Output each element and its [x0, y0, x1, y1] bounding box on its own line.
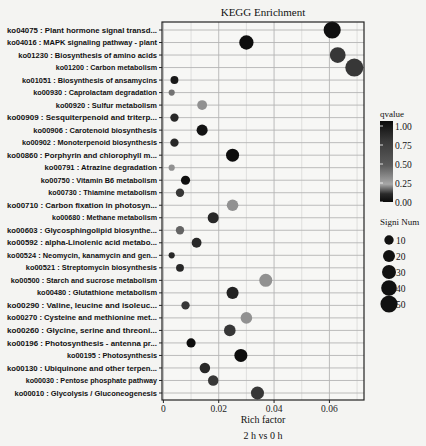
y-axis-label: ko00680 : Methane metabolism — [52, 214, 157, 222]
color-bar-label: 0.75 — [395, 141, 412, 151]
size-legend-label: 10 — [396, 236, 406, 246]
y-axis-label: ko01051 : Biosynthesis of ansamycins — [22, 77, 157, 85]
y-axis-label: ko00750 : Vitamin B6 metabolism — [41, 177, 157, 185]
size-legend-title: Signi Num — [380, 217, 419, 227]
y-axis-label: ko00930 : Caprolactam degradation — [33, 89, 157, 97]
y-axis-label: ko04075 : Plant hormone signal transd... — [7, 27, 157, 35]
size-legend-label: 50 — [396, 300, 406, 310]
data-point — [345, 59, 363, 77]
data-point — [197, 125, 208, 136]
data-point — [224, 325, 236, 337]
data-point — [170, 113, 178, 121]
y-axis-label: ko00500 : Starch and sucrose metabolism — [11, 277, 157, 285]
y-axis-label: ko00524 : Neomycin, kanamycin and gen... — [7, 252, 157, 260]
data-point — [208, 212, 219, 223]
data-point — [192, 238, 202, 248]
y-axis-label: ko00902 : Monoterpenoid biosynthesis — [22, 139, 157, 147]
data-point — [169, 165, 175, 171]
y-axis-label: ko00030 : Pentose phosphate pathway — [26, 377, 157, 385]
x-tick-label: 0.02 — [210, 404, 227, 414]
size-legend-label: 30 — [396, 268, 406, 278]
y-axis-label: ko00730 : Thiamine metabolism — [48, 189, 157, 197]
color-legend: qvalue 1.000.750.500.250.00 — [380, 109, 412, 208]
y-axis-labels: ko04075 : Plant hormone signal transd...… — [7, 27, 162, 398]
y-axis-label: ko00710 : Carbon fixation in photosyn... — [7, 202, 157, 210]
y-axis-label: ko00521 : Streptomycin biosynthesis — [26, 264, 157, 272]
x-axis-label: Rich factor — [241, 414, 286, 425]
plot-area — [162, 21, 364, 400]
data-point — [226, 149, 239, 162]
data-point — [181, 301, 189, 309]
size-legend-dot — [384, 235, 393, 244]
y-axis-label: ko00920 : Sulfur metabolism — [56, 102, 157, 110]
data-point — [186, 338, 195, 347]
x-tick-label: 0.06 — [321, 404, 338, 414]
size-legend: Signi Num 1020304050 — [380, 217, 419, 313]
x-tick-label: 0 — [161, 404, 166, 414]
size-legend-label: 40 — [396, 284, 406, 294]
y-axis-label: ko00480 : Glutathione metabolism — [37, 289, 157, 297]
size-legend-label: 20 — [396, 252, 406, 262]
kegg-enrichment-chart: KEGG Enrichment ko04075 : Plant hormone … — [0, 0, 426, 446]
color-bar — [380, 121, 393, 202]
data-point — [330, 47, 346, 63]
chart-title: KEGG Enrichment — [221, 6, 306, 18]
y-axis-label: ko00791 : Atrazine degradation — [45, 164, 158, 172]
y-axis-label: ko00603 : Glycosphingolipid biosynthe... — [7, 227, 157, 235]
data-point — [324, 21, 341, 38]
color-bar-label: 0.25 — [395, 179, 412, 189]
data-point — [227, 199, 239, 211]
data-point — [197, 100, 207, 110]
size-legend-dot — [383, 250, 395, 262]
y-axis-label: ko00906 : Carotenoid biosynthesis — [33, 127, 157, 135]
y-axis-label: ko01230 : Biosynthesis of amino acids — [18, 52, 157, 60]
color-bar-label: 0.50 — [395, 160, 412, 170]
y-axis-label: ko00260 : Glycine, serine and threoni... — [7, 327, 157, 335]
x-tick-label: 0.04 — [266, 404, 283, 414]
data-point — [181, 176, 190, 185]
y-axis-label: ko00010 : Glycolysis / Gluconeogenesis — [15, 390, 158, 398]
data-point — [200, 363, 210, 373]
data-point — [169, 90, 175, 96]
y-axis-label: ko00196 : Photosynthesis - antenna pr... — [7, 340, 157, 348]
color-legend-title: qvalue — [380, 109, 404, 119]
data-point — [170, 138, 178, 146]
data-point — [169, 252, 175, 258]
y-axis-label: ko01200 : Carbon metabolism — [56, 64, 157, 72]
data-point — [227, 287, 239, 299]
data-point — [171, 76, 179, 84]
y-axis-label: ko04016 : MAPK signaling pathway - plant — [7, 39, 158, 47]
y-axis-label: ko00270 : Cysteine and methionine met... — [7, 314, 157, 322]
data-point — [176, 264, 184, 272]
data-point — [176, 226, 184, 234]
size-legend-dot — [380, 295, 397, 312]
data-point — [251, 386, 264, 399]
data-point — [176, 189, 184, 197]
y-axis-label: ko00860 : Porphyrin and chlorophyll m... — [7, 152, 157, 160]
y-axis-label: ko00909 : Sesquiterpenoid and triterp... — [7, 114, 157, 122]
data-point — [239, 35, 253, 49]
y-axis-label: ko00130 : Ubiquinone and other terpen... — [7, 365, 157, 373]
y-axis-label: ko00290 : Valine, leucine and isoleuc... — [7, 302, 157, 310]
color-bar-label: 1.00 — [395, 122, 412, 132]
data-point — [259, 274, 272, 287]
color-bar-label: 0.00 — [395, 198, 412, 208]
y-axis-label: ko00195 : Photosynthesis — [67, 352, 157, 360]
y-axis-label: ko00592 : alpha-Linolenic acid metabo... — [7, 239, 157, 247]
size-legend-dot — [382, 265, 396, 279]
data-point — [234, 349, 247, 362]
data-point — [241, 312, 253, 324]
x-axis-ticks: 00.020.040.06 — [161, 400, 338, 414]
chart-subtitle: 2 h vs 0 h — [244, 430, 283, 441]
size-legend-dot — [381, 280, 397, 296]
data-point — [208, 375, 218, 385]
